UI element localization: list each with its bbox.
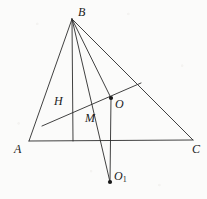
point-label-c: C <box>192 143 200 155</box>
point-label-a: A <box>14 143 21 155</box>
point-label-h: H <box>54 95 63 107</box>
geometry-figure: ABCHMOO1 <box>0 0 207 199</box>
point-label-subscript: 1 <box>123 175 127 184</box>
figure-canvas <box>0 0 207 199</box>
point-label-m: M <box>85 112 95 124</box>
side-AC <box>29 140 193 141</box>
point-label-o: O <box>115 98 124 110</box>
point-label-b: B <box>78 6 85 18</box>
segment-O-to-O1 <box>110 98 111 182</box>
segment-B-to-O <box>72 19 111 98</box>
cevian-B-to-O1 <box>72 19 110 182</box>
point-dot-o <box>109 96 113 100</box>
altitude-B-to-AC <box>72 19 73 141</box>
point-label-o1: O1 <box>114 170 127 182</box>
point-dot-o1 <box>108 180 112 184</box>
